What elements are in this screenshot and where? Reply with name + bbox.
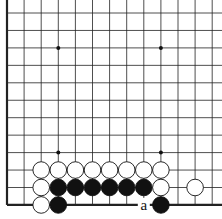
star-point — [56, 151, 60, 155]
star-point — [56, 46, 60, 50]
white-stone[interactable] — [33, 197, 50, 214]
black-stone[interactable] — [153, 197, 170, 214]
white-stone[interactable] — [84, 162, 101, 179]
white-stone[interactable] — [67, 162, 84, 179]
white-stone[interactable] — [101, 162, 118, 179]
white-stone[interactable] — [33, 162, 50, 179]
white-stone[interactable] — [153, 162, 170, 179]
go-board[interactable]: a — [0, 0, 222, 219]
star-point — [159, 46, 163, 50]
white-stone[interactable] — [153, 179, 170, 196]
black-stone[interactable] — [50, 179, 67, 196]
black-stone[interactable] — [67, 179, 84, 196]
white-stone[interactable] — [187, 179, 204, 196]
white-stone[interactable] — [33, 179, 50, 196]
black-stone[interactable] — [136, 179, 153, 196]
point-label: a — [140, 197, 147, 213]
black-stone[interactable] — [118, 179, 135, 196]
black-stone[interactable] — [101, 179, 118, 196]
white-stone[interactable] — [50, 162, 67, 179]
black-stone[interactable] — [84, 179, 101, 196]
star-point — [159, 151, 163, 155]
white-stone[interactable] — [136, 162, 153, 179]
white-stone[interactable] — [118, 162, 135, 179]
black-stone[interactable] — [50, 197, 67, 214]
